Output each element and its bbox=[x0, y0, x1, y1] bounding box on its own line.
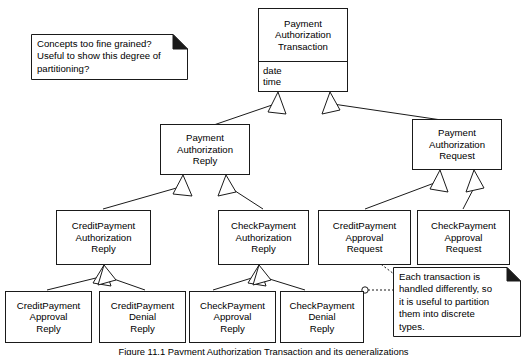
edge-checkrequest-to-request bbox=[463, 182, 477, 209]
edge-checkapprovalreply-to-parent bbox=[213, 277, 255, 290]
generalization-arrowhead bbox=[253, 265, 271, 285]
class-name: CreditPayment Authorization Reply bbox=[57, 211, 150, 264]
generalization-arrowhead bbox=[268, 92, 286, 114]
class-name: Payment Authorization Request bbox=[413, 120, 501, 169]
class-name: CreditPayment Denial Reply bbox=[100, 292, 185, 342]
generalization-arrowhead bbox=[466, 170, 484, 192]
class-payment-authorization-reply[interactable]: Payment Authorization Reply bbox=[160, 124, 250, 175]
class-creditpayment-approval-reply[interactable]: CreditPayment Approval Reply bbox=[5, 291, 92, 343]
generalization-arrowhead bbox=[93, 265, 111, 286]
class-name: CheckPayment Authorization Reply bbox=[219, 211, 308, 264]
class-name: Payment Authorization Reply bbox=[161, 125, 249, 174]
class-checkpayment-denial-reply[interactable]: CheckPayment Denial Reply bbox=[280, 291, 364, 343]
figure-caption: Figure 11.1 Payment Authorization Transa… bbox=[0, 346, 527, 355]
note-text: Each transaction is handled differently,… bbox=[393, 267, 521, 337]
edge-creditrequest-to-request bbox=[365, 182, 437, 209]
class-name: CheckPayment Approval Reply bbox=[190, 292, 275, 342]
generalization-arrowhead bbox=[173, 175, 192, 196]
note-discrete-types[interactable]: Each transaction is handled differently,… bbox=[393, 267, 521, 337]
diagram-canvas: Payment Authorization Transaction date t… bbox=[0, 0, 527, 355]
generalization-arrowhead bbox=[218, 175, 236, 196]
class-creditpayment-approval-request[interactable]: CreditPayment Approval Request bbox=[318, 210, 411, 265]
class-creditpayment-denial-reply[interactable]: CreditPayment Denial Reply bbox=[99, 291, 186, 343]
generalization-arrowhead bbox=[430, 170, 448, 192]
note-fine-grained[interactable]: Concepts too fine grained? Useful to sho… bbox=[31, 34, 188, 80]
edge-checkreply-to-reply bbox=[229, 187, 263, 209]
class-checkpayment-authorization-reply[interactable]: CheckPayment Authorization Reply bbox=[218, 210, 309, 265]
class-attributes: date time bbox=[259, 61, 347, 91]
class-name: CreditPayment Approval Request bbox=[319, 211, 410, 264]
edge-creditapprovalreply-to-parent bbox=[47, 277, 100, 290]
class-payment-authorization-request[interactable]: Payment Authorization Request bbox=[412, 119, 502, 170]
class-name: CreditPayment Approval Reply bbox=[6, 292, 91, 342]
edge-checkdenialreply-to-parent bbox=[263, 277, 305, 290]
edge-creditdenialreply-to-parent bbox=[108, 277, 145, 290]
class-name: CheckPayment Approval Request bbox=[418, 211, 509, 264]
class-name: Payment Authorization Transaction bbox=[259, 9, 347, 61]
generalization-arrowhead bbox=[98, 265, 116, 285]
generalization-arrowhead bbox=[322, 92, 340, 114]
class-checkpayment-approval-reply[interactable]: CheckPayment Approval Reply bbox=[189, 291, 276, 343]
generalization-arrowhead bbox=[248, 265, 266, 286]
class-name: CheckPayment Denial Reply bbox=[281, 292, 363, 342]
class-creditpayment-authorization-reply[interactable]: CreditPayment Authorization Reply bbox=[56, 210, 151, 265]
note-text: Concepts too fine grained? Useful to sho… bbox=[31, 34, 188, 79]
class-checkpayment-approval-request[interactable]: CheckPayment Approval Request bbox=[417, 210, 510, 265]
class-payment-authorization-transaction[interactable]: Payment Authorization Transaction date t… bbox=[258, 8, 348, 92]
edge-creditreply-to-reply bbox=[103, 187, 180, 209]
